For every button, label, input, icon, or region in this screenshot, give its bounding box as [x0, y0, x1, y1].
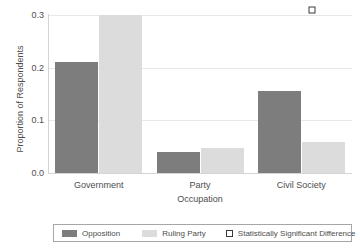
legend-item-label: Statistically Significant Difference	[238, 229, 356, 238]
x-axis-line	[48, 173, 352, 174]
bar-government-ruling-party	[99, 15, 142, 173]
bar-civil-society-ruling-party	[302, 142, 345, 173]
x-axis-title: Occupation	[48, 194, 352, 204]
y-tick-label: 0.3	[4, 10, 44, 20]
color-swatch-icon	[142, 230, 157, 237]
y-axis-tick-labels: 0.00.10.20.3	[0, 0, 44, 248]
bar-government-opposition	[55, 62, 98, 173]
legend-item-label: Opposition	[82, 229, 120, 238]
significance-marker-icon	[309, 6, 316, 13]
legend-item-sig[interactable]: Statistically Significant Difference	[226, 229, 356, 238]
color-swatch-icon	[62, 230, 77, 237]
open-square-icon	[226, 230, 233, 237]
bar-chart-figure: Proportion of Respondents 0.00.10.20.3 G…	[0, 0, 360, 248]
y-tick-label: 0.2	[4, 63, 44, 73]
chart-legend: OppositionRuling PartyStatistically Sign…	[53, 224, 352, 242]
x-tick-label: Government	[74, 180, 124, 190]
y-tick-label: 0.1	[4, 115, 44, 125]
x-tick-label: Party	[189, 180, 210, 190]
bars-layer	[48, 14, 352, 173]
bar-civil-society-opposition	[258, 91, 301, 173]
bar-party-ruling-party	[201, 148, 244, 173]
y-tick-label: 0.0	[4, 168, 44, 178]
bar-party-opposition	[157, 152, 200, 173]
legend-item-opposition[interactable]: Opposition	[62, 229, 120, 238]
x-tick-label: Civil Society	[277, 180, 326, 190]
legend-item-ruling[interactable]: Ruling Party	[142, 229, 206, 238]
legend-item-label: Ruling Party	[162, 229, 206, 238]
